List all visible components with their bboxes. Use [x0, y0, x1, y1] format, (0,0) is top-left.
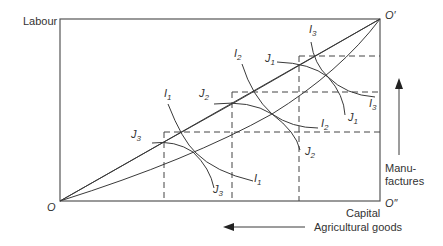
- dashed-guides: [164, 56, 380, 201]
- label-J2-top: J2: [198, 87, 210, 102]
- svg-text:J3: J3: [130, 128, 142, 143]
- svg-text:I3: I3: [309, 23, 317, 38]
- svg-text:J1: J1: [264, 52, 275, 67]
- label-J1-top: J1: [264, 52, 275, 67]
- agricultural-goods-label: Agricultural goods: [314, 221, 403, 233]
- origin-o-double-prime-label: O″: [385, 197, 399, 209]
- edgeworth-box-diagram: Labour O O′ O″ Capital Agricultural good…: [0, 0, 443, 246]
- capital-axis-label: Capital: [346, 207, 380, 219]
- origin-o-prime-label: O′: [385, 9, 397, 21]
- manufactures-arrow: [395, 78, 403, 155]
- svg-text:J2: J2: [304, 145, 316, 160]
- label-J2-bottom: J2: [304, 145, 316, 160]
- svg-text:I2: I2: [321, 117, 329, 132]
- isoquant-J1: [277, 62, 345, 115]
- label-J3-top: J3: [130, 128, 142, 143]
- svg-text:I3: I3: [369, 97, 377, 112]
- label-I3-bottom: I3: [369, 97, 377, 112]
- svg-text:J1: J1: [347, 111, 358, 126]
- isoquant-I2: [242, 64, 318, 128]
- svg-text:J2: J2: [198, 87, 210, 102]
- label-I1-bottom: I1: [254, 172, 262, 187]
- label-I2-bottom: I2: [321, 117, 329, 132]
- labour-axis-label: Labour: [23, 15, 58, 27]
- manufactures-label-1: Manu-: [385, 162, 417, 174]
- label-J1-bottom: J1: [347, 111, 358, 126]
- manufactures-label-2: factures: [385, 175, 425, 187]
- origin-o-label: O: [47, 201, 56, 213]
- svg-text:I2: I2: [234, 47, 242, 62]
- isoquant-I3: [311, 42, 375, 97]
- agricultural-arrow: [223, 223, 305, 231]
- svg-text:I1: I1: [164, 87, 172, 102]
- isoquant-J2: [214, 103, 300, 150]
- label-I1-top: I1: [164, 87, 172, 102]
- label-I3-top: I3: [309, 23, 317, 38]
- label-I2-top: I2: [234, 47, 242, 62]
- svg-text:I1: I1: [254, 172, 262, 187]
- svg-text:J3: J3: [212, 183, 224, 198]
- label-J3-bottom: J3: [212, 183, 224, 198]
